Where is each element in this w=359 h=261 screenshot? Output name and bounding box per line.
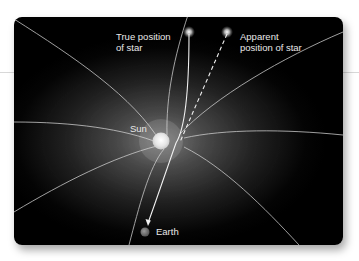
apparent-position-line2: position of star [240, 42, 302, 53]
lensing-diagram-panel: True position of star Apparent position … [14, 17, 343, 245]
earth-icon [141, 228, 150, 237]
sun-icon [153, 133, 170, 150]
sun-label: Sun [130, 123, 147, 134]
true-position-line1: True position [116, 31, 171, 42]
apparent-position-label: Apparent position of star [240, 31, 302, 53]
apparent-star-icon [221, 26, 233, 38]
apparent-position-line1: Apparent [240, 31, 302, 42]
true-position-line2: of star [116, 42, 171, 53]
arrowhead-icon [146, 219, 151, 226]
true-position-label: True position of star [116, 31, 171, 53]
earth-label: Earth [156, 226, 179, 237]
